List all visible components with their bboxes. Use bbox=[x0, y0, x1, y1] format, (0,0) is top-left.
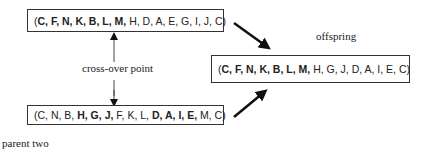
gene-sequence: (C, F, N, K, B, L, M, H, D, A, E, G, I, … bbox=[34, 15, 226, 27]
gene-sequence: (C, F, N, K, B, L, M, H, G, J, D, A, I, … bbox=[218, 63, 410, 75]
gene: F, bbox=[116, 109, 127, 121]
gene: H, bbox=[129, 15, 142, 27]
gene: M, bbox=[299, 63, 314, 75]
gene: B, bbox=[89, 15, 102, 27]
gene: J, bbox=[204, 15, 215, 27]
gene: M, bbox=[115, 15, 130, 27]
gene: E, bbox=[168, 15, 181, 27]
gene: J, bbox=[341, 63, 352, 75]
gene: D, bbox=[352, 63, 365, 75]
gene: C, bbox=[222, 63, 235, 75]
gene: B, bbox=[273, 63, 286, 75]
gene: H, bbox=[77, 109, 90, 121]
gene: C bbox=[399, 63, 407, 75]
gene: I, bbox=[377, 63, 386, 75]
gene-sequence: (C, N, B, H, G, J, F, K, L, D, A, I, E, … bbox=[34, 109, 226, 121]
gene: N, bbox=[62, 15, 75, 27]
gene: C bbox=[215, 15, 223, 27]
gene: L, bbox=[102, 15, 114, 27]
gene: F, bbox=[235, 63, 246, 75]
gene: C bbox=[215, 109, 223, 121]
gene: N, bbox=[51, 109, 64, 121]
gene: F, bbox=[51, 15, 62, 27]
gene: G, bbox=[327, 63, 341, 75]
gene: G, bbox=[181, 15, 195, 27]
parent-one-chromosome: (C, F, N, K, B, L, M, H, D, A, E, G, I, … bbox=[27, 9, 224, 32]
gene: M, bbox=[200, 109, 215, 121]
gene: D, bbox=[143, 15, 156, 27]
gene: C, bbox=[38, 15, 51, 27]
gene: G, bbox=[91, 109, 105, 121]
gene: K, bbox=[127, 109, 140, 121]
gene: E, bbox=[386, 63, 399, 75]
offspring-label: offspring bbox=[316, 30, 356, 42]
gene: D, bbox=[152, 109, 165, 121]
crossover-label: cross-over point bbox=[80, 62, 155, 74]
arrow-parent-one-to-offspring bbox=[234, 23, 266, 46]
parent-two-label: parent two bbox=[2, 137, 49, 149]
gene: H, bbox=[313, 63, 326, 75]
gene: K, bbox=[259, 63, 272, 75]
gene: N, bbox=[246, 63, 259, 75]
parent-two-chromosome: (C, N, B, H, G, J, F, K, L, D, A, I, E, … bbox=[27, 105, 224, 125]
gene: K, bbox=[75, 15, 88, 27]
gene: J, bbox=[105, 109, 117, 121]
gene: I, bbox=[195, 15, 204, 27]
gene: A, bbox=[365, 63, 378, 75]
gene: A, bbox=[165, 109, 178, 121]
gene: C, bbox=[38, 109, 51, 121]
gene: I, bbox=[178, 109, 187, 121]
gene: L, bbox=[286, 63, 298, 75]
gene: E, bbox=[187, 109, 200, 121]
gene: A, bbox=[155, 15, 168, 27]
arrow-parent-two-to-offspring bbox=[234, 93, 263, 117]
gene: B, bbox=[64, 109, 77, 121]
offspring-chromosome: (C, F, N, K, B, L, M, H, G, J, D, A, I, … bbox=[211, 55, 410, 83]
gene: L, bbox=[140, 109, 152, 121]
